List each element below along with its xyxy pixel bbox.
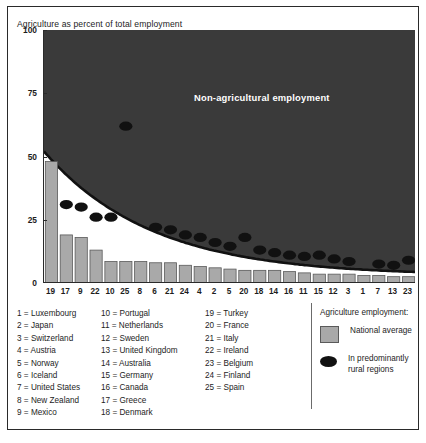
x-axis-tick-label: 10 [103,285,118,298]
bar [194,267,206,283]
legend-heading: Agriculture employment: [320,308,420,317]
country-key-entry: 19 = Turkey [205,308,295,320]
data-point-dot [313,251,326,260]
country-key-column: 19 = Turkey20 = France21 = Italy22 = Ire… [205,308,295,420]
bar [60,235,72,283]
data-point-dot [268,248,281,257]
country-key-entry: 7 = United States [17,382,101,394]
country-key-entry: 20 = France [205,320,295,332]
bar [402,277,414,283]
x-axis-tick-label: 19 [43,285,58,298]
bar-swatch-icon [320,326,339,343]
x-axis-tick-label: 18 [251,285,266,298]
x-axis-tick-label: 4 [192,285,207,298]
country-key-entry: 4 = Austria [17,345,101,357]
x-axis-tick-label: 21 [162,285,177,298]
y-axis-tick-mark [43,93,47,94]
country-key-entry: 23 = Belgium [205,358,295,370]
bar [269,270,281,283]
data-point-dot [164,225,177,234]
bar [45,162,57,283]
x-axis-tick-label: 11 [296,285,311,298]
bar [313,274,325,283]
country-key-entry: 2 = Japan [17,320,101,332]
country-key-entry: 14 = Australia [101,358,205,370]
data-point-dot [342,257,355,266]
chart-svg [44,30,415,283]
x-axis-tick-label: 15 [311,285,326,298]
x-axis-tick-label: 25 [117,285,132,298]
x-axis-tick-label: 5 [222,285,237,298]
bar [388,277,400,283]
plot-area: Non-agricultural employment [43,30,415,283]
x-axis-tick-label: 13 [385,285,400,298]
x-axis-tick-label: 20 [236,285,251,298]
x-axis-tick-label: 22 [88,285,103,298]
x-axis-tick-label: 24 [177,285,192,298]
data-point-dot [238,233,251,242]
country-key-entry: 18 = Denmark [101,407,205,419]
bar [328,274,340,283]
country-key-entry: 5 = Norway [17,358,101,370]
y-axis-tick-mark [43,282,47,283]
bar [90,250,102,283]
country-key-entry: 12 = Sweden [101,333,205,345]
country-key-entry: 3 = Switzerland [17,333,101,345]
y-axis-tick-mark [43,30,47,31]
country-key-entry: 11 = Netherlands [101,320,205,332]
data-point-dot [119,122,132,131]
bar [209,268,221,283]
legend-divider [311,303,312,409]
legend-item-rural-regions: In predominantly rural regions [320,354,420,375]
data-point-dot [75,203,88,212]
x-axis-tick-label: 3 [341,285,356,298]
dot-swatch-icon [320,356,337,367]
y-axis-tick-mark [43,157,47,158]
data-point-dot [179,230,192,239]
bar [254,270,266,283]
data-point-dot [60,200,73,209]
country-key-entry: 15 = Germany [101,370,205,382]
bar [120,262,132,284]
bar [343,274,355,283]
bar [283,272,295,283]
data-point-dot [298,252,311,261]
x-axis-tick-label: 6 [147,285,162,298]
country-key-entry: 8 = New Zealand [17,395,101,407]
chart-title: Agriculture as percent of total employme… [17,19,182,29]
data-point-dot [209,238,222,247]
data-point-dot [387,261,400,270]
legend-label-rural-regions: In predominantly rural regions [348,354,420,375]
data-point-dot [149,223,162,232]
bar [150,263,162,283]
x-axis-tick-label: 12 [326,285,341,298]
y-axis-tick-label: 75 [28,88,37,98]
plot-canvas: Non-agricultural employment [43,30,415,283]
country-key-entry: 24 = Finland [205,370,295,382]
x-axis-labels: 1917922102586212442520181416111512317132… [43,285,415,298]
x-axis-tick-label: 2 [207,285,222,298]
x-axis-tick-label: 17 [58,285,73,298]
y-axis-tick-mark [43,220,47,221]
bar [373,275,385,283]
country-key-entry: 22 = Ireland [205,345,295,357]
data-point-dot [402,256,415,265]
bar [239,270,251,283]
x-axis-tick-label: 8 [132,285,147,298]
data-point-dot [328,254,341,263]
data-point-dot [253,246,266,255]
country-key-column: 10 = Portugal11 = Netherlands12 = Sweden… [101,308,205,420]
y-axis-tick-label: 100 [23,25,37,35]
country-key-entry: 25 = Spain [205,382,295,394]
bar [164,263,176,283]
country-key-column: 1 = Luxembourg2 = Japan3 = Switzerland4 … [17,308,101,420]
country-key-entry: 10 = Portugal [101,308,205,320]
x-axis-tick-label: 16 [281,285,296,298]
bar [105,262,117,284]
country-key-entry: 21 = Italy [205,333,295,345]
data-point-dot [283,251,296,260]
figure-root: Agriculture as percent of total employme… [0,0,426,443]
y-axis-tick-label: 0 [32,278,37,288]
country-key-entry: 17 = Greece [101,395,205,407]
data-point-dot [223,242,236,251]
